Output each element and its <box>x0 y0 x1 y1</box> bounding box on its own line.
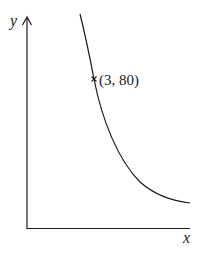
point-label: (3, 80) <box>99 72 139 89</box>
y-axis-label: y <box>8 12 18 30</box>
curve-diagram: (3, 80) y x <box>0 0 202 255</box>
x-axis-label: x <box>182 229 190 246</box>
y-axis <box>23 17 32 229</box>
decay-curve <box>80 14 190 203</box>
